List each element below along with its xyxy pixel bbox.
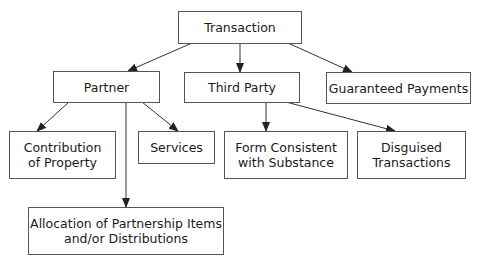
node-partner: Partner [53,71,160,103]
edge-transaction-partner [128,43,192,71]
node-services: Services [138,131,215,164]
edge-partner-contribution [37,102,69,131]
transaction-tree-diagram: Transaction Partner Third Party Guarante… [0,0,481,264]
node-transaction: Transaction [178,11,302,44]
edge-partner-services [142,102,178,131]
node-third-party: Third Party [184,72,300,103]
edge-transaction-guaranteed-payments [288,43,352,72]
node-disguised-transactions: Disguised Transactions [357,131,466,179]
node-contribution-of-property: Contribution of Property [9,131,116,179]
node-allocation-of-partnership-items: Allocation of Partnership Items and/or D… [28,207,224,255]
node-guaranteed-payments: Guaranteed Payments [326,72,471,104]
edge-third-party-disguised [286,102,395,131]
node-form-consistent-with-substance: Form Consistent with Substance [224,131,348,179]
